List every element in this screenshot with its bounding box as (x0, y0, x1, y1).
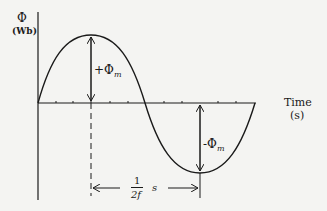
flux-sine-diagram: Φ (Wb) +Φm -Φm Time (s) 1 2f s (0, 0, 327, 211)
frac-denominator: 2f (131, 190, 141, 200)
diagram-graphics (0, 0, 327, 211)
frac-unit: s (152, 183, 157, 193)
neg-peak-label: -Φm (203, 138, 225, 153)
frac-numerator: 1 (134, 176, 140, 186)
wb-unit-label: (Wb) (12, 27, 37, 36)
time-unit-label: (s) (290, 110, 304, 121)
phi-axis-label: Φ (17, 12, 27, 24)
frac-bar (131, 187, 143, 188)
pos-peak-label: +Φm (94, 64, 122, 79)
time-axis-label: Time (284, 97, 312, 108)
